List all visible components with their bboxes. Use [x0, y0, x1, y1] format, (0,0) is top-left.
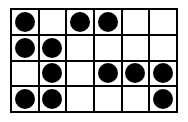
grid-cell[interactable] [12, 62, 40, 88]
filled-circle-marker [15, 38, 35, 58]
filled-circle-marker [42, 63, 62, 83]
grid-cell[interactable] [150, 87, 178, 113]
filled-circle-marker [42, 38, 62, 58]
grid-cell[interactable] [95, 10, 123, 36]
filled-circle-marker [98, 12, 118, 32]
grid-cell[interactable] [150, 36, 178, 62]
grid-cell[interactable] [67, 87, 95, 113]
filled-circle-marker [15, 89, 35, 109]
grid-cell[interactable] [150, 62, 178, 88]
filled-circle-marker [153, 89, 173, 109]
grid-cell[interactable] [40, 10, 68, 36]
filled-circle-marker [153, 63, 173, 83]
grid-cell[interactable] [150, 10, 178, 36]
filled-circle-marker [42, 89, 62, 109]
grid-cell[interactable] [40, 36, 68, 62]
grid-cell[interactable] [123, 36, 151, 62]
grid-cell[interactable] [95, 36, 123, 62]
filled-circle-marker [125, 63, 145, 83]
grid-cell[interactable] [123, 10, 151, 36]
grid-cell[interactable] [12, 36, 40, 62]
cell-grid [10, 8, 178, 113]
filled-circle-marker [15, 12, 35, 32]
filled-circle-marker [70, 12, 90, 32]
grid-cell[interactable] [12, 87, 40, 113]
grid-cell[interactable] [67, 62, 95, 88]
grid-cell[interactable] [12, 10, 40, 36]
grid-cell[interactable] [67, 36, 95, 62]
figure-canvas [0, 0, 188, 122]
grid-cell[interactable] [95, 62, 123, 88]
grid-cell[interactable] [95, 87, 123, 113]
grid-cell[interactable] [123, 62, 151, 88]
grid-cell[interactable] [40, 62, 68, 88]
grid-cell[interactable] [67, 10, 95, 36]
grid-cell[interactable] [40, 87, 68, 113]
grid-cell[interactable] [123, 87, 151, 113]
filled-circle-marker [98, 63, 118, 83]
